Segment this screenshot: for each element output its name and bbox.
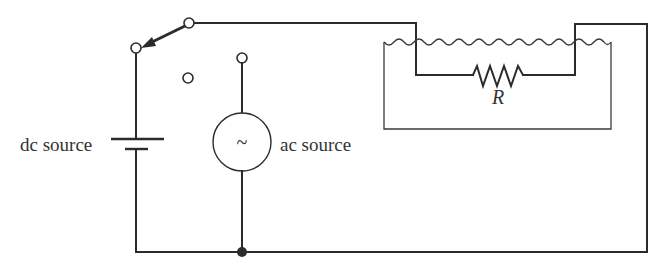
switch bbox=[131, 18, 247, 83]
switch-arrow-icon bbox=[141, 37, 156, 48]
liquid-surface bbox=[384, 39, 611, 45]
junction-node bbox=[237, 247, 247, 257]
circuit-diagram: dc source ~ ac source R bbox=[0, 0, 669, 267]
ac-source: ~ bbox=[213, 63, 271, 252]
switch-dc-terminal bbox=[131, 43, 141, 53]
resistor bbox=[473, 66, 523, 86]
dc-source-label: dc source bbox=[20, 134, 92, 155]
resistor-label: R bbox=[491, 86, 504, 108]
switch-off-terminal bbox=[183, 73, 193, 83]
ac-symbol-icon: ~ bbox=[237, 131, 248, 153]
ac-source-label: ac source bbox=[280, 134, 351, 155]
switch-ac-terminal bbox=[237, 53, 247, 63]
dc-source-battery bbox=[111, 139, 164, 149]
switch-common-terminal bbox=[184, 18, 194, 28]
switch-arm bbox=[150, 26, 185, 43]
